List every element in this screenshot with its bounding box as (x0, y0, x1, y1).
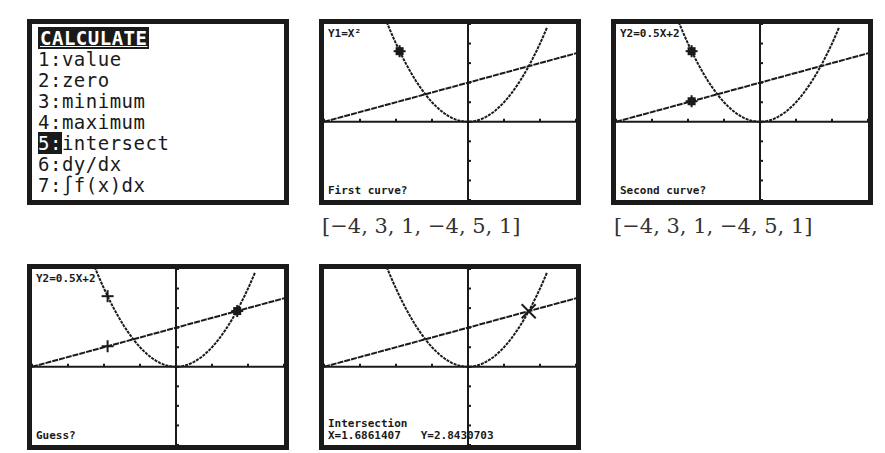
calculate-menu: CALCULATE 1:value 2:zero 3:minimum 4:max… (38, 28, 169, 196)
menu-item-value[interactable]: 1:value (38, 49, 169, 70)
function-label: Y2=0.5X+2 (36, 272, 96, 285)
prompt-text: Second curve? (620, 185, 706, 197)
graph-screen-intersection: Intersection X=1.6861407 Y=2.8430703 (319, 264, 581, 450)
graph-screen-second-curve: Y2=0.5X+2 Second curve? (611, 19, 873, 205)
graph-plot (616, 24, 868, 200)
menu-title: CALCULATE (38, 27, 149, 49)
graph-plot (324, 24, 576, 200)
window-settings-caption: [−4, 3, 1, −4, 5, 1] (614, 214, 813, 238)
calculate-menu-screen: CALCULATE 1:value 2:zero 3:minimum 4:max… (27, 19, 289, 205)
menu-item-dydx[interactable]: 6:dy/dx (38, 154, 169, 175)
menu-item-integral[interactable]: 7:∫f(x)dx (38, 175, 169, 196)
prompt-text: Guess? (36, 430, 76, 442)
graph-plot (32, 269, 284, 445)
function-label: Y2=0.5X+2 (620, 27, 680, 40)
result-x: X=1.6861407 (328, 429, 401, 442)
menu-item-minimum[interactable]: 3:minimum (38, 91, 169, 112)
prompt-text: First curve? (328, 185, 407, 197)
menu-item-intersect[interactable]: 5:intersect (38, 133, 169, 154)
graph-screen-guess: Y2=0.5X+2 Guess? (27, 264, 289, 450)
result-y: Y=2.8430703 (421, 429, 494, 442)
function-label: Y1=X² (328, 27, 361, 40)
menu-item-zero[interactable]: 2:zero (38, 70, 169, 91)
menu-item-maximum[interactable]: 4:maximum (38, 112, 169, 133)
graph-screen-first-curve: Y1=X² First curve? (319, 19, 581, 205)
intersection-result: Intersection X=1.6861407 Y=2.8430703 (328, 418, 494, 442)
window-settings-caption: [−4, 3, 1, −4, 5, 1] (322, 214, 521, 238)
